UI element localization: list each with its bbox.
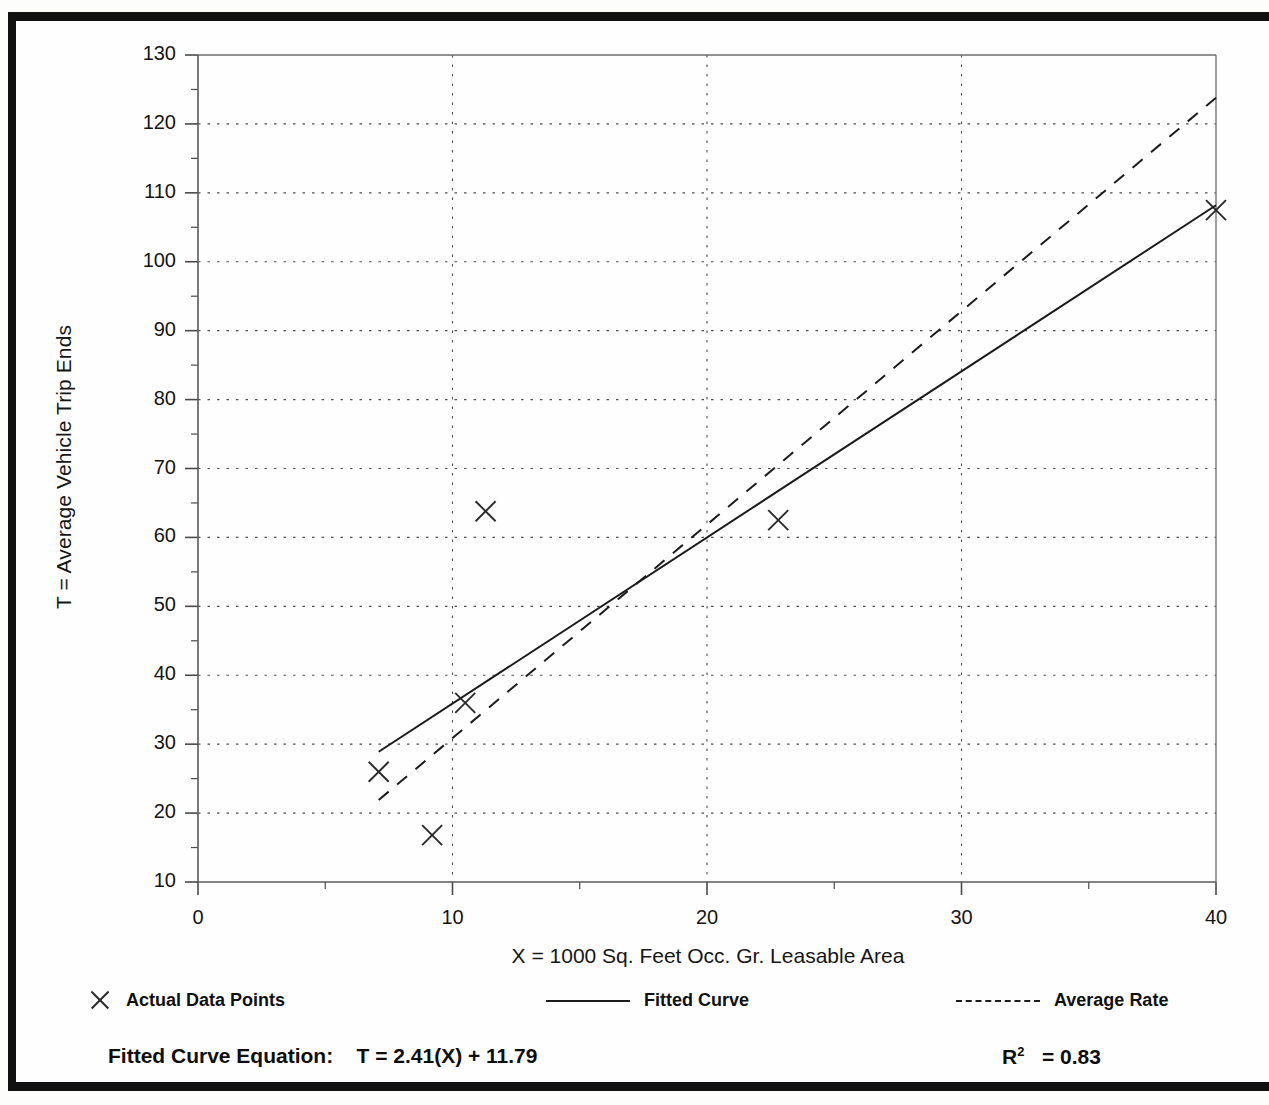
legend-item-actual-data-points: Actual Data Points — [88, 985, 285, 1015]
legend-item-average-rate: Average Rate — [956, 985, 1168, 1015]
y-tick-label: 20 — [118, 800, 176, 823]
y-tick-label: 70 — [118, 456, 176, 479]
r-squared-value: R2 = 0.83 — [1002, 1044, 1101, 1069]
y-tick-label: 80 — [118, 387, 176, 410]
chart-legend: Actual Data Points Fitted Curve Average … — [16, 985, 1226, 1025]
y-tick-label: 90 — [118, 318, 176, 341]
x-tick-label: 10 — [423, 906, 483, 929]
y-axis-title: T = Average Vehicle Trip Ends — [52, 257, 76, 677]
y-tick-label: 100 — [118, 249, 176, 272]
x-tick-label: 20 — [677, 906, 737, 929]
dashed-line-icon — [956, 1000, 1040, 1002]
figure-page: T = Average Vehicle Trip Ends X = 1000 S… — [0, 0, 1269, 1105]
y-tick-label: 110 — [118, 180, 176, 203]
x-tick-label: 0 — [168, 906, 228, 929]
x-tick-label: 30 — [932, 906, 992, 929]
solid-line-icon — [546, 1000, 630, 1002]
legend-label-average: Average Rate — [1054, 990, 1168, 1011]
y-tick-label: 50 — [118, 593, 176, 616]
x-tick-label: 40 — [1186, 906, 1246, 929]
data-series — [369, 98, 1226, 845]
axis-ticks — [185, 55, 1216, 895]
x-marker-icon — [88, 988, 112, 1012]
legend-item-fitted-curve: Fitted Curve — [546, 985, 749, 1015]
y-tick-label: 40 — [118, 662, 176, 685]
r-squared-number: = 0.83 — [1042, 1045, 1101, 1068]
y-tick-label: 120 — [118, 111, 176, 134]
fitted-curve-equation: Fitted Curve Equation: T = 2.41(X) + 11.… — [108, 1044, 537, 1068]
y-tick-label: 30 — [118, 731, 176, 754]
legend-label-fitted: Fitted Curve — [644, 990, 749, 1011]
y-tick-label: 130 — [118, 42, 176, 65]
legend-label-actual: Actual Data Points — [126, 990, 285, 1011]
x-axis-title: X = 1000 Sq. Feet Occ. Gr. Leasable Area — [198, 944, 1218, 968]
r-squared-symbol: R — [1002, 1045, 1017, 1068]
r-squared-exponent: 2 — [1017, 1044, 1024, 1059]
scatter-plot — [0, 0, 1269, 1105]
fitted-equation-label: Fitted Curve Equation: — [108, 1044, 333, 1067]
fitted-equation-formula: T = 2.41(X) + 11.79 — [357, 1044, 538, 1067]
y-tick-label: 60 — [118, 524, 176, 547]
equation-row: Fitted Curve Equation: T = 2.41(X) + 11.… — [16, 1044, 1226, 1078]
y-tick-label: 10 — [118, 869, 176, 892]
grid-lines — [198, 55, 1216, 882]
